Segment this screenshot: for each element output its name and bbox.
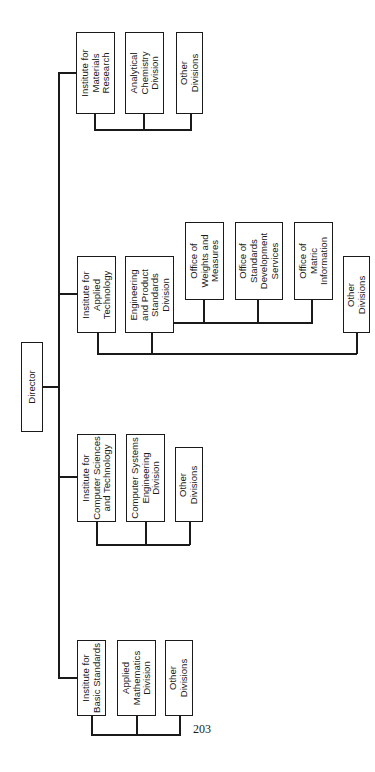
computer-stub-2 — [145, 521, 147, 545]
basic-stub-2 — [136, 715, 138, 735]
engineering-product-standards-division-label: Engineering and Product Standards Divisi… — [128, 269, 170, 321]
computer-other-divisions-box: Other Divisions — [175, 447, 203, 522]
institute-applied-technology-label: Institute for Applied Technology — [81, 270, 113, 319]
office-stub-3 — [311, 299, 313, 323]
office-matric-information-label: Office of Matric Information — [298, 237, 330, 285]
institute-basic-standards-label: Institute for Basic Standards — [81, 643, 102, 713]
institute-computer-sciences-label: Institute for Computer Sciences and Tech… — [81, 436, 113, 520]
director-label: Director — [27, 370, 38, 404]
director-connector — [43, 386, 59, 388]
office-standards-development-services-box: Office of Standards Development Services — [235, 222, 283, 300]
institute-applied-technology-box: Institute for Applied Technology — [77, 256, 116, 333]
office-matric-information-box: Office of Matric Information — [294, 222, 333, 300]
engineering-product-standards-division-box: Engineering and Product Standards Divisi… — [125, 256, 174, 333]
analytical-chemistry-division-box: Analytical Chemistry Division — [125, 32, 164, 114]
materials-bus — [94, 129, 192, 131]
applied-tech-branch — [58, 293, 77, 295]
analytical-chemistry-division-label: Analytical Chemistry Division — [129, 51, 161, 94]
applied-tech-other-divisions-label: Other Divisions — [346, 275, 367, 313]
basic-standards-branch — [58, 677, 78, 679]
main-trunk-line — [58, 72, 60, 679]
computer-stub-1 — [96, 521, 98, 545]
applied-mathematics-division-box: Applied Mathematics Division — [117, 640, 156, 716]
applied-tech-bus — [97, 353, 357, 355]
computer-stub-3 — [189, 521, 191, 545]
page-number: 203 — [193, 722, 211, 737]
director-box: Director — [21, 342, 43, 432]
computer-bus — [96, 544, 190, 546]
applied-tech-other-divisions-box: Other Divisions — [343, 256, 370, 333]
applied-tech-stub-2 — [151, 332, 153, 354]
applied-mathematics-division-label: Applied Mathematics Division — [121, 651, 153, 705]
office-weights-measures-box: Office of Weights and Measures — [185, 222, 224, 300]
computer-other-divisions-label: Other Divisions — [178, 465, 199, 503]
computer-systems-engineering-division-label: Computer Systems Engineering Division — [130, 437, 162, 519]
institute-basic-standards-box: Institute for Basic Standards — [77, 640, 106, 716]
office-stub-2 — [257, 299, 259, 323]
basic-other-divisions-label: Other Divisions — [168, 659, 189, 697]
office-stub-1 — [203, 299, 205, 323]
materials-other-divisions-label: Other Divisions — [179, 54, 200, 92]
office-standards-development-services-label: Office of Standards Development Services — [238, 233, 280, 290]
computer-sciences-branch — [58, 476, 78, 478]
applied-tech-stub-1 — [97, 332, 99, 354]
applied-tech-stub-3 — [356, 332, 358, 354]
computer-systems-engineering-division-box: Computer Systems Engineering Division — [126, 434, 165, 522]
materials-branch — [58, 72, 77, 74]
institute-materials-research-box: Institute for Materials Research — [76, 32, 115, 114]
institute-computer-sciences-box: Institute for Computer Sciences and Tech… — [77, 434, 116, 522]
offices-bus — [174, 322, 313, 324]
basic-stub-1 — [91, 715, 93, 735]
basic-other-divisions-box: Other Divisions — [165, 640, 193, 716]
institute-materials-research-label: Institute for Materials Research — [80, 49, 112, 96]
basic-stub-3 — [179, 715, 181, 735]
materials-other-divisions-box: Other Divisions — [176, 32, 203, 114]
office-weights-measures-label: Office of Weights and Measures — [189, 234, 221, 287]
